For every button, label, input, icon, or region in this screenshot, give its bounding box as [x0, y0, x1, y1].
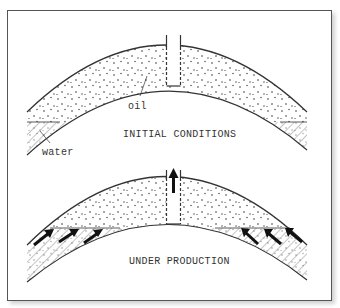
initial-conditions-title: INITIAL CONDITIONS — [123, 129, 236, 140]
well-bore-production — [167, 168, 181, 224]
reservoir-diagram: oil water INITIAL CONDITIONS — [0, 0, 340, 308]
under-production-title: UNDER PRODUCTION — [129, 256, 230, 267]
initial-conditions-panel: oil water INITIAL CONDITIONS — [0, 0, 340, 182]
well-bore — [167, 35, 181, 86]
oil-label: oil — [128, 101, 147, 112]
water-label: water — [42, 147, 74, 158]
under-production-panel: UNDER PRODUCTION — [0, 150, 340, 288]
